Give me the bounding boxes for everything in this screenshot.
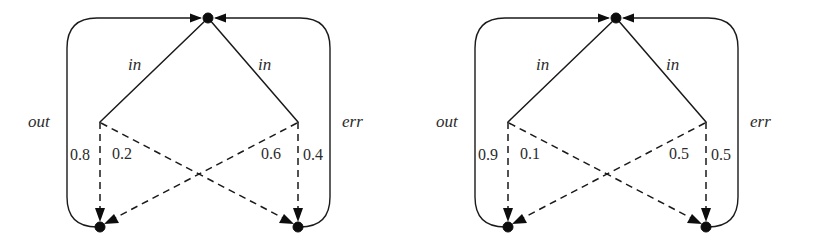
out-arrowhead-top (598, 14, 610, 23)
err-label: err (342, 113, 363, 130)
right-inner-dashed-edge (521, 123, 705, 219)
in-right-edge (617, 19, 706, 122)
right-inner-weight: 0.6 (261, 146, 281, 162)
in-left-edge (100, 19, 207, 122)
bottom-left-node (503, 222, 513, 232)
right-inner-arrowhead (512, 214, 527, 224)
out-label: out (436, 113, 458, 130)
left-outer-arrowhead (95, 208, 105, 222)
err-label: err (750, 113, 771, 130)
left-outer-weight: 0.9 (478, 147, 498, 163)
in-left-edge (508, 19, 615, 122)
left-inner-weight: 0.1 (520, 146, 540, 162)
err-frame-path (624, 18, 738, 227)
top-node (203, 13, 213, 23)
left-outer-arrowhead (503, 208, 513, 222)
left-inner-dashed-edge (509, 123, 693, 219)
err-frame-path (216, 18, 330, 227)
figure-root: in in out err 0.8 0.2 0.6 0.4 (0, 0, 816, 246)
out-label: out (28, 113, 50, 130)
out-frame-path (67, 18, 200, 227)
in-left-label: in (536, 56, 549, 73)
left-inner-dashed-edge (101, 123, 285, 219)
right-outer-weight: 0.4 (303, 147, 323, 163)
right-outer-arrowhead (701, 208, 711, 222)
err-arrowhead-top (214, 14, 226, 23)
left-graph: in in out err 0.8 0.2 0.6 0.4 (0, 0, 408, 246)
out-frame-path (475, 18, 608, 227)
left-inner-arrowhead (687, 214, 702, 224)
right-outer-arrowhead (293, 208, 303, 222)
err-arrowhead-top (622, 14, 634, 23)
top-node (611, 13, 621, 23)
right-graph: in in out err 0.9 0.1 0.5 0.5 (408, 0, 816, 246)
right-inner-dashed-edge (113, 123, 297, 219)
out-arrowhead-top (190, 14, 202, 23)
right-inner-arrowhead (104, 214, 119, 224)
bottom-right-node (293, 222, 303, 232)
in-right-label: in (666, 56, 679, 73)
left-inner-weight: 0.2 (112, 146, 132, 162)
in-right-edge (209, 19, 298, 122)
bottom-right-node (701, 222, 711, 232)
in-left-label: in (128, 56, 141, 73)
left-outer-weight: 0.8 (70, 147, 90, 163)
left-inner-arrowhead (279, 214, 294, 224)
in-right-label: in (258, 56, 271, 73)
right-inner-weight: 0.5 (669, 146, 689, 162)
bottom-left-node (95, 222, 105, 232)
right-outer-weight: 0.5 (711, 147, 731, 163)
